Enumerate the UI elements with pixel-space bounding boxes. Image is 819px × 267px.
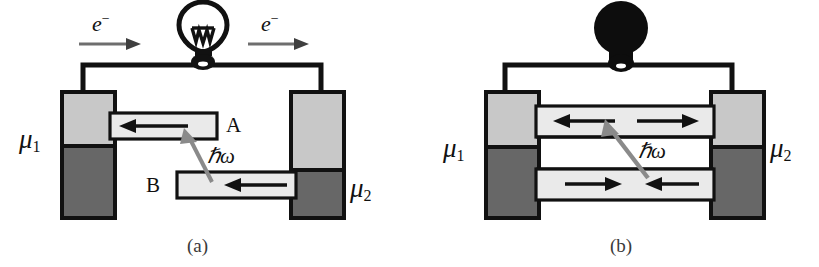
- panel-b: μ1 μ2 ℏω (b): [410, 0, 819, 267]
- electrode-right: [291, 92, 344, 218]
- channel-gap-lines: [536, 137, 714, 169]
- panel-caption-b: (b): [610, 236, 632, 255]
- chemical-potential-label-mu1: μ1: [443, 135, 465, 164]
- channel-upper-band: [536, 106, 714, 137]
- channel-label-a: A: [226, 115, 241, 136]
- electrode-left: [486, 92, 539, 218]
- chemical-potential-label-mu2: μ2: [350, 175, 372, 204]
- chemical-potential-label-mu1: μ1: [19, 126, 41, 155]
- electron-label-right: e−: [261, 12, 279, 35]
- panel-b-graphics: [410, 0, 819, 267]
- channel-label-b: B: [146, 175, 160, 196]
- channel-a-bar: [110, 113, 217, 139]
- electrode-right: [711, 92, 764, 218]
- panel-a-graphics: [0, 0, 410, 267]
- panel-a: e− e− μ1 μ2 A B ℏω (a): [0, 0, 410, 267]
- figure-canvas: e− e− μ1 μ2 A B ℏω (a): [0, 0, 819, 267]
- electron-flow-arrow-left: [79, 38, 141, 50]
- lightbulb-solid-icon: [594, 1, 648, 72]
- electron-flow-arrow-right: [248, 38, 309, 50]
- lightbulb-outline-icon: [179, 2, 227, 70]
- panel-caption-a: (a): [187, 236, 208, 255]
- electron-label-left: e−: [92, 12, 110, 35]
- photon-label-hbar-omega: ℏω: [638, 141, 666, 162]
- channel-b-bar: [177, 172, 296, 198]
- photon-label-hbar-omega: ℏω: [207, 146, 235, 167]
- chemical-potential-label-mu2: μ2: [770, 135, 792, 164]
- electrode-left: [62, 92, 115, 218]
- channel-lower-band: [536, 169, 714, 200]
